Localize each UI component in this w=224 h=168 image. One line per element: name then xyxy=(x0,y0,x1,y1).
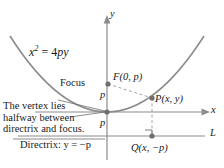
vertex-note-line-3: directrix and focus. xyxy=(3,123,84,135)
focal-radius-segment xyxy=(108,84,152,98)
p-distance-upper-label: p xyxy=(100,90,105,101)
focus-caption: Focus xyxy=(60,78,85,89)
equation-label: x2 = 4py xyxy=(29,45,69,58)
equation-equals: = 4 xyxy=(39,45,58,59)
vertex-dot xyxy=(104,109,109,114)
vertex-note-line-2: halfway between xyxy=(3,112,84,124)
x-axis-arrowhead xyxy=(202,109,211,116)
x-axis-label: x xyxy=(211,105,216,116)
vertex-note: The vertex lies halfway between directri… xyxy=(3,100,84,135)
point-q-dot xyxy=(149,133,154,138)
y-axis-label: y xyxy=(110,9,115,20)
point-q-label: Q(x, −p) xyxy=(131,143,168,154)
parabola-figure: x2 = 4py y x Focus F(0, p) p p P(x, y) Q… xyxy=(0,0,224,168)
directrix-caption: Directrix: y = −p xyxy=(20,140,91,151)
point-p-dot xyxy=(149,95,154,100)
equation-rhs: py xyxy=(57,45,68,59)
vertex-note-line-1: The vertex lies xyxy=(3,100,84,112)
focus-point-label: F(0, p) xyxy=(113,72,142,83)
point-p-label: P(x, y) xyxy=(155,94,183,105)
directrix-line-label: L xyxy=(210,128,216,139)
p-distance-lower-label: p xyxy=(100,118,105,129)
focus-point-dot xyxy=(105,81,110,86)
